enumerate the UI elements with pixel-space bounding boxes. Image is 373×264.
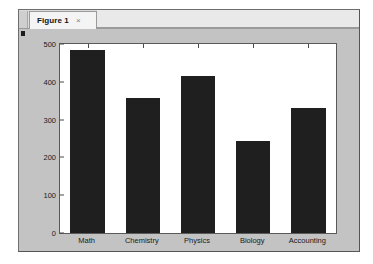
tab-figure-1[interactable]: Figure 1 × [29,11,97,29]
bar [126,98,160,233]
bar [291,108,325,233]
bar [236,141,270,233]
close-icon[interactable]: × [74,17,81,25]
y-tick-label: 500 [43,40,56,49]
x-tick-label: Chemistry [125,236,159,245]
figure-corner-marker [21,31,25,36]
x-axis-labels: MathChemistryPhysicsBiologyAccounting [59,236,337,250]
y-tick-label: 100 [43,191,56,200]
screenshot-root: Figure 1 × 0100200300400500 MathChemistr… [0,0,373,264]
y-tick-label: 200 [43,153,56,162]
y-tick-label: 0 [52,229,56,238]
figure-window: Figure 1 × 0100200300400500 MathChemistr… [18,9,360,252]
tab-strip-gutter [19,11,28,28]
x-tick-label: Math [78,236,95,245]
tab-strip: Figure 1 × [19,10,359,29]
x-tick-label: Accounting [289,236,326,245]
bar [181,76,215,233]
y-tick-label: 400 [43,77,56,86]
x-tick-label: Physics [184,236,210,245]
plot-canvas: 0100200300400500 [59,43,337,234]
bar [70,50,104,233]
figure-body: 0100200300400500 MathChemistryPhysicsBio… [19,29,359,251]
bars-layer [60,44,336,233]
x-tick-label: Biology [240,236,265,245]
y-tick-label: 300 [43,115,56,124]
tab-strip-filler [97,10,359,28]
tab-label: Figure 1 [37,16,69,25]
